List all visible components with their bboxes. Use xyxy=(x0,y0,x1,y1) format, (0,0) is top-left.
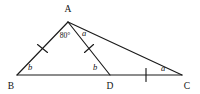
tick-segment-AD xyxy=(85,45,94,53)
angle-label-ACB: a xyxy=(161,63,165,73)
angle-label-DAC: a xyxy=(82,28,86,38)
vertex-label-B: B xyxy=(8,81,14,91)
vertex-label-A: A xyxy=(65,4,72,14)
tick-segment-AB xyxy=(38,45,48,53)
vertex-label-D: D xyxy=(107,81,114,91)
vertex-label-C: C xyxy=(184,81,190,91)
geometry-figure: A B D C 80° a b b a xyxy=(0,0,200,94)
angle-label-BAD: 80° xyxy=(60,31,71,40)
angle-label-ABD: b xyxy=(28,62,32,72)
angle-label-ADB: b xyxy=(93,62,97,72)
geometry-canvas: A B D C 80° a b b a xyxy=(0,0,200,94)
